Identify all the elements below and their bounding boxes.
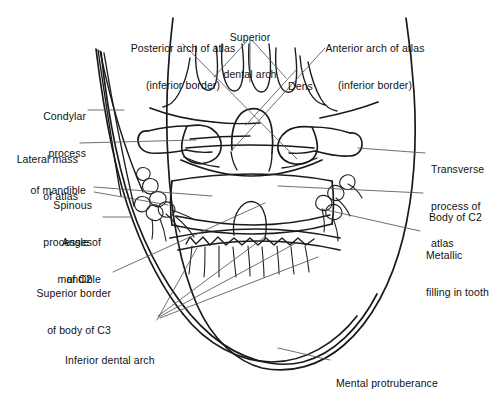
label-line: Mental protruberance [336,377,438,389]
atlas-vertebra [138,125,362,168]
articular-cluster-right [316,175,362,241]
label-line: Superior border [0,287,111,299]
anterior-arch-atlas [186,136,314,148]
leader-metallic-filling [322,209,420,231]
label-line: Metallic [426,249,489,261]
label-inferior-dental-arch: Inferior dental arch [65,330,155,391]
leader-body-c2 [278,186,423,193]
label-line: Body of C2 [429,211,482,223]
label-line: Anterior arch of atlas [305,42,445,54]
label-line: (inferior border) [305,79,445,91]
label-line: Transverse [431,163,484,175]
label-line: Spinous [0,199,92,211]
label-mental-protuberance: Mental protruberance [336,353,438,393]
label-anterior-arch-of-atlas: Anterior arch of atlas (inferior border) [305,18,445,116]
label-dens: Dens [288,56,313,117]
inferior-dental-arch [170,229,340,277]
label-line: Superior [198,31,302,43]
label-line: Inferior dental arch [65,354,155,366]
label-line: Dens [288,80,313,92]
label-line: Lateral mass [0,153,78,165]
label-line: filling in tooth [426,286,489,298]
label-line: Angle of [0,236,101,248]
leader-spinous-1 [94,187,212,196]
label-line: dental arch [198,68,302,80]
label-superior-dental-arch: Superior dental arch [198,7,302,105]
label-metallic-filling-in-tooth: Metallic filling in tooth [426,225,489,323]
label-line: Condylar [0,110,86,122]
